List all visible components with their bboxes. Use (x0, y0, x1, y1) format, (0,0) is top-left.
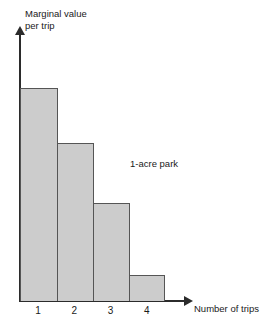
plot-area (20, 60, 165, 301)
x-axis-arrowhead-icon (184, 296, 193, 306)
bar-1 (20, 88, 58, 301)
bar-2 (56, 143, 94, 301)
bar-3 (93, 203, 131, 301)
x-tick-label-4: 4 (129, 304, 165, 317)
y-axis-label-line-1: Marginal value (25, 8, 87, 19)
x-axis-label: Number of trips (194, 303, 259, 315)
chart-figure: Marginal value per trip Number of trips … (0, 0, 263, 335)
bar-4 (129, 275, 165, 301)
y-axis-label-line-2: per trip (25, 20, 87, 32)
x-tick-label-1: 1 (20, 304, 56, 317)
y-axis-arrowhead-icon (15, 26, 25, 35)
x-axis-tick-labels: 1 2 3 4 (20, 304, 165, 320)
x-tick-label-2: 2 (56, 304, 92, 317)
y-axis-label: Marginal value per trip (25, 8, 87, 31)
x-tick-label-3: 3 (93, 304, 129, 317)
